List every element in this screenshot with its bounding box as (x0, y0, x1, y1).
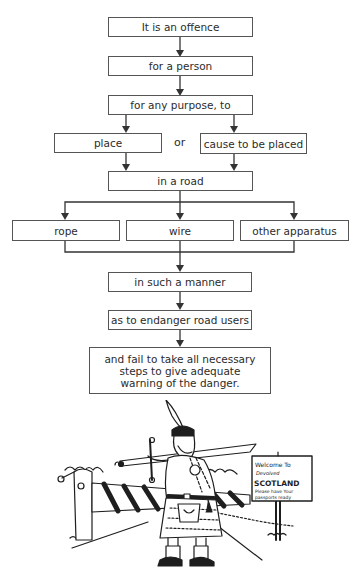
node-endanger: as to endanger road users (108, 310, 252, 330)
node-fail-to-warn: and fail to take all necessary steps to … (89, 347, 271, 394)
sign-line-passports: passports ready (255, 495, 291, 500)
node-label: as to endanger road users (111, 314, 249, 326)
node-cause-to-be-placed: cause to be placed (200, 133, 307, 154)
sign-line-please: Please have Your (255, 489, 293, 494)
node-person: for a person (108, 56, 253, 76)
node-label: other apparatus (252, 225, 337, 237)
node-wire: wire (126, 220, 234, 241)
sign-line-scotland: SCOTLAND (254, 479, 299, 488)
node-label: place (94, 137, 122, 149)
node-label: and fail to take all necessary steps to … (100, 353, 260, 389)
node-label: in a road (157, 175, 203, 187)
node-label: It is an offence (142, 21, 220, 33)
node-place: place (54, 133, 162, 153)
sign-line-welcome: Welcome To (255, 461, 291, 468)
node-label: wire (169, 225, 191, 237)
node-label: cause to be placed (204, 138, 303, 150)
node-label: in such a manner (134, 276, 225, 288)
node-other-apparatus: other apparatus (240, 220, 349, 241)
node-label: rope (54, 225, 78, 237)
gate-post (58, 469, 92, 540)
highlander-cartoon: Welcome To Devolved SCOTLAND Please have… (0, 400, 360, 580)
node-label: for any purpose, to (130, 99, 230, 111)
sign-line-devolved: Devolved (256, 470, 280, 476)
node-offence: It is an offence (108, 17, 253, 37)
highlander-figure (148, 400, 222, 566)
node-purpose: for any purpose, to (108, 95, 253, 115)
node-rope: rope (12, 220, 120, 241)
or-label: or (174, 136, 185, 149)
node-in-a-road: in a road (108, 171, 253, 191)
node-manner: in such a manner (108, 272, 252, 292)
node-label: for a person (149, 60, 213, 72)
